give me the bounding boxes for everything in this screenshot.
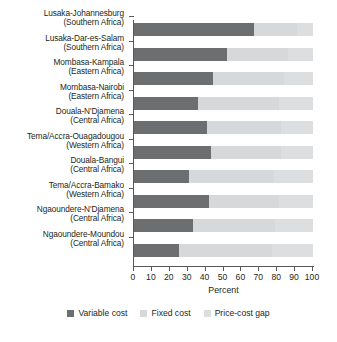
y-axis-category-labels: Lusaka-Johannesburg(Southern Africa)Lusa…: [0, 20, 130, 265]
plot-area: [134, 20, 313, 265]
bar-segment-variable-cost: [134, 97, 198, 110]
bar-segment-fixed-cost: [207, 121, 280, 134]
x-axis-tick-label: 80: [271, 272, 281, 283]
legend-swatch-icon: [140, 310, 147, 317]
y-axis-category-label: Mombasa-Nairobi(Eastern Africa): [0, 83, 124, 102]
x-axis-tick-label: 100: [305, 272, 319, 283]
y-axis-category-label: Lusaka-Dar-es-Salam(Southern Africa): [0, 34, 124, 53]
bar-segment-fixed-cost: [254, 23, 297, 36]
x-axis-tick: [151, 266, 152, 271]
x-axis-title: Percent: [133, 285, 314, 295]
bar-segment-variable-cost: [134, 121, 207, 134]
x-axis-tick: [133, 266, 134, 271]
bar-segment-fixed-cost: [209, 195, 279, 208]
bar-segment-variable-cost: [134, 146, 211, 159]
x-axis-tick-label: 30: [182, 272, 192, 283]
bar-segment-price-cost-gap: [288, 48, 313, 61]
x-axis-tick-label: 10: [146, 272, 156, 283]
bar-segment-variable-cost: [134, 244, 179, 257]
category-label-line2: (Western Africa): [0, 190, 124, 199]
category-label-line2: (Central Africa): [0, 165, 124, 174]
y-axis-category-label: Douala-N'Djamena(Central Africa): [0, 107, 124, 126]
x-axis-tick-label: 90: [289, 272, 299, 283]
x-axis-tick: [294, 266, 295, 271]
bar-segment-price-cost-gap: [274, 170, 313, 183]
chart-legend: Variable costFixed costPrice-cost gap: [0, 308, 337, 318]
y-axis-category-label: Tema/Accra-Ouagadougou(Western Africa): [0, 132, 124, 151]
x-axis-tick-labels: 0102030405060708090100: [110, 272, 337, 284]
category-label-line2: (Eastern Africa): [0, 92, 124, 101]
y-axis-category-label: Lusaka-Johannesburg(Southern Africa): [0, 9, 124, 28]
bar-segment-price-cost-gap: [279, 97, 313, 110]
category-label-line2: (Southern Africa): [0, 18, 124, 27]
y-axis-category-label: Ngaoundere-N'Djamena(Central Africa): [0, 205, 124, 224]
bar-segment-price-cost-gap: [275, 219, 313, 232]
legend-item[interactable]: Price-cost gap: [204, 308, 270, 318]
x-axis-tick-label: 60: [236, 272, 246, 283]
bar-segment-fixed-cost: [179, 244, 272, 257]
bar-segment-variable-cost: [134, 195, 209, 208]
bar-segment-price-cost-gap: [279, 195, 313, 208]
x-axis-tick: [187, 266, 188, 271]
legend-item[interactable]: Variable cost: [67, 308, 127, 318]
bar-row: [134, 97, 313, 110]
x-axis-tick: [205, 266, 206, 271]
bar-segment-fixed-cost: [193, 219, 275, 232]
y-axis-category-label: Ngaoundere-Moundou(Central Africa): [0, 230, 124, 249]
bar-segment-price-cost-gap: [281, 121, 313, 134]
x-axis-tick: [169, 266, 170, 271]
bar-row: [134, 121, 313, 134]
y-axis-category-label: Mombasa-Kampala(Eastern Africa): [0, 58, 124, 77]
bar-segment-fixed-cost: [189, 170, 273, 183]
y-axis-category-label: Douala-Bangui(Central Africa): [0, 156, 124, 175]
category-label-line2: (Central Africa): [0, 214, 124, 223]
bar-segment-price-cost-gap: [281, 146, 313, 159]
bar-segment-price-cost-gap: [284, 72, 313, 85]
y-axis-tick: [129, 16, 134, 17]
category-label-line2: (Southern Africa): [0, 43, 124, 52]
legend-label: Fixed cost: [151, 308, 190, 318]
legend-swatch-icon: [67, 310, 74, 317]
bar-row: [134, 170, 313, 183]
y-axis-category-label: Tema/Accra-Bamako(Western Africa): [0, 181, 124, 200]
bar-row: [134, 146, 313, 159]
category-label-line2: (Western Africa): [0, 141, 124, 150]
category-label-line2: (Eastern Africa): [0, 67, 124, 76]
x-axis-tick: [276, 266, 277, 271]
x-axis-tick-label: 20: [164, 272, 174, 283]
x-axis-tick-label: 70: [254, 272, 264, 283]
legend-swatch-icon: [204, 310, 211, 317]
bar-segment-fixed-cost: [227, 48, 288, 61]
x-axis-tick-label: 0: [131, 272, 136, 283]
x-axis-tick: [258, 266, 259, 271]
bar-segment-fixed-cost: [198, 97, 279, 110]
x-axis-tick: [240, 266, 241, 271]
bar-row: [134, 72, 313, 85]
x-axis-tick-label: 40: [200, 272, 210, 283]
bar-segment-variable-cost: [134, 48, 227, 61]
bar-segment-variable-cost: [134, 23, 254, 36]
bar-segment-variable-cost: [134, 170, 189, 183]
stacked-bar-chart: Lusaka-Johannesburg(Southern Africa)Lusa…: [0, 0, 337, 342]
bar-row: [134, 23, 313, 36]
bar-row: [134, 48, 313, 61]
bar-segment-fixed-cost: [213, 72, 285, 85]
x-axis-tick-label: 50: [218, 272, 228, 283]
bar-row: [134, 219, 313, 232]
legend-item[interactable]: Fixed cost: [140, 308, 190, 318]
bar-segment-price-cost-gap: [297, 23, 313, 36]
x-axis-tick: [312, 266, 313, 271]
bar-row: [134, 244, 313, 257]
category-label-line2: (Central Africa): [0, 239, 124, 248]
bar-segment-variable-cost: [134, 219, 193, 232]
bar-segment-variable-cost: [134, 72, 213, 85]
legend-label: Price-cost gap: [215, 308, 270, 318]
bar-row: [134, 195, 313, 208]
bar-segment-fixed-cost: [211, 146, 281, 159]
legend-label: Variable cost: [78, 308, 127, 318]
category-label-line2: (Central Africa): [0, 116, 124, 125]
x-axis-tick: [223, 266, 224, 271]
bar-segment-price-cost-gap: [272, 244, 313, 257]
